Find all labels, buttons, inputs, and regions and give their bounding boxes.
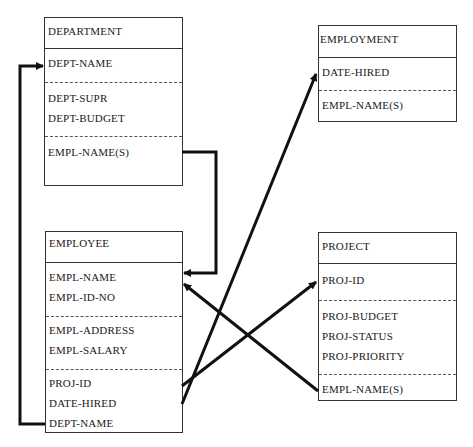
header-divider <box>46 262 182 263</box>
header-divider <box>319 263 456 264</box>
field-date-hired: DATE-HIRED <box>322 66 389 78</box>
entity-title: EMPLOYMENT <box>320 33 398 45</box>
field-date-hired: DATE-HIRED <box>49 397 116 409</box>
field-proj-budget: PROJ-BUDGET <box>322 310 398 322</box>
field-dept-supr: DEPT-SUPR <box>48 92 107 104</box>
field-proj-priority: PROJ-PRIORITY <box>322 350 405 362</box>
dashed-divider <box>46 316 182 317</box>
field-empl-names: EMPL-NAME(S) <box>48 146 129 158</box>
field-proj-id: PROJ-ID <box>322 274 364 286</box>
dashed-divider <box>319 300 456 301</box>
entity-employment: EMPLOYMENT DATE-HIRED EMPL-NAME(S) <box>318 25 457 122</box>
field-empl-id-no: EMPL-ID-NO <box>49 291 115 303</box>
field-empl-name: EMPL-NAME <box>49 271 116 283</box>
field-proj-status: PROJ-STATUS <box>322 330 393 342</box>
field-empl-names: EMPL-NAME(S) <box>322 383 403 395</box>
entity-title: EMPLOYEE <box>49 237 109 249</box>
dashed-divider <box>319 374 456 375</box>
field-dept-name: DEPT-NAME <box>48 57 112 69</box>
field-empl-address: EMPL-ADDRESS <box>49 324 135 336</box>
header-divider <box>319 57 456 58</box>
entity-title: PROJECT <box>322 240 370 252</box>
field-empl-salary: EMPL-SALARY <box>49 344 128 356</box>
arrow-project-empl-to-employee <box>184 284 318 391</box>
arrow-employee-datehired-to-employment <box>182 74 316 404</box>
dashed-divider <box>45 82 182 83</box>
field-proj-id: PROJ-ID <box>49 377 91 389</box>
entity-department: DEPARTMENT DEPT-NAME DEPT-SUPR DEPT-BUDG… <box>44 17 183 186</box>
dashed-divider <box>319 90 456 91</box>
dashed-divider <box>46 369 182 370</box>
field-empl-names: EMPL-NAME(S) <box>322 99 403 111</box>
header-divider <box>45 48 182 49</box>
entity-employee: EMPLOYEE EMPL-NAME EMPL-ID-NO EMPL-ADDRE… <box>45 231 183 433</box>
arrow-employee-dept-to-department <box>20 66 45 424</box>
arrow-department-empl-to-employee <box>182 152 216 273</box>
dashed-divider <box>45 136 182 137</box>
entity-title: DEPARTMENT <box>48 25 122 37</box>
entity-project: PROJECT PROJ-ID PROJ-BUDGET PROJ-STATUS … <box>318 232 457 401</box>
field-dept-name: DEPT-NAME <box>49 417 113 429</box>
arrow-employee-projid-to-project <box>182 282 316 386</box>
field-dept-budget: DEPT-BUDGET <box>48 112 125 124</box>
